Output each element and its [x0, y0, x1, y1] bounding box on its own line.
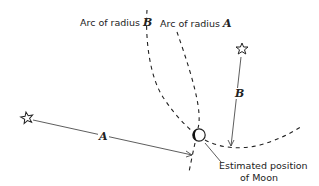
arc-radius-a-continuation	[189, 143, 195, 172]
arc-radius-b-label-var: B	[143, 16, 152, 29]
arc-radius-a-label: Arc of radius A	[160, 18, 232, 29]
distance-line-b	[231, 57, 241, 146]
arc-radius-a	[177, 32, 199, 128]
arc-radius-a-label-text: Arc of radius	[160, 18, 223, 29]
distance-line-a	[33, 120, 192, 155]
moon-note-line2: of Moon	[219, 172, 299, 184]
distance-a-label: A	[98, 131, 109, 142]
arc-radius-b-label-text: Arc of radius	[80, 17, 143, 28]
moon-position-note: Estimated position of Moon	[219, 160, 299, 183]
arc-radius-a-label-var: A	[223, 17, 232, 30]
star-left-icon	[20, 111, 34, 124]
arc-radius-b-label: Arc of radius B	[80, 17, 152, 28]
star-right-icon	[236, 43, 248, 54]
moon-icon	[193, 129, 205, 141]
arc-radius-b-continuation	[205, 126, 302, 148]
distance-b-label: B	[234, 88, 245, 99]
moon-note-line1: Estimated position	[219, 160, 299, 172]
